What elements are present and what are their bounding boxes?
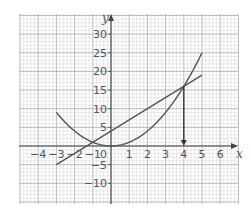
y-tick-label: 20 (93, 65, 107, 78)
arrow-down-icon (181, 140, 187, 146)
grid (19, 14, 238, 204)
x-tick-label: 4 (180, 148, 187, 161)
y-axis-label: y (101, 11, 109, 25)
y-tick-label: 15 (93, 84, 107, 97)
x-tick-label: 6 (217, 148, 224, 161)
y-tick-label: 25 (93, 47, 107, 60)
y-tick-label: 30 (93, 28, 107, 41)
x-tick-label: 2 (144, 148, 151, 161)
origin-label: 0 (100, 148, 107, 161)
graph: −4−3−2−112345630252015105−5−10 y x 0 (0, 0, 251, 214)
x-tick-label: 3 (162, 148, 169, 161)
y-tick-label: 10 (93, 103, 107, 116)
x-tick-label: −3 (48, 148, 64, 161)
x-axis-label: x (236, 147, 243, 161)
x-tick-label: 1 (126, 148, 133, 161)
y-tick-label: −10 (84, 177, 107, 190)
x-tick-label: 5 (199, 148, 206, 161)
y-tick-label: 5 (100, 121, 107, 134)
x-tick-label: −4 (30, 148, 46, 161)
